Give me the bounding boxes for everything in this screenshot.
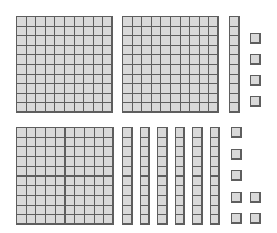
ten-rod	[192, 127, 202, 224]
diagram-title: Base-ten blocks	[0, 0, 7, 1]
block-cell	[175, 214, 186, 225]
unit-cube	[250, 33, 260, 43]
unit-cube	[250, 213, 260, 223]
unit-cube	[250, 192, 260, 202]
block-cell	[102, 102, 113, 113]
block-cell	[157, 214, 168, 225]
unit-cube	[250, 96, 260, 106]
ten-rod	[210, 127, 220, 224]
ten-rod	[140, 127, 150, 224]
block-cell	[231, 213, 242, 224]
block-cell	[250, 192, 261, 203]
block-cell	[122, 214, 133, 225]
hundred-flat	[122, 16, 218, 112]
block-cell	[140, 214, 151, 225]
block-cell	[231, 192, 242, 203]
ten-rod	[122, 127, 132, 224]
block-cell	[210, 214, 221, 225]
ten-rod	[175, 127, 185, 224]
block-cell	[250, 96, 261, 107]
hundred-flat	[16, 127, 113, 224]
unit-cube	[231, 192, 241, 202]
unit-cube	[231, 127, 241, 137]
unit-cube	[231, 149, 241, 159]
block-cell	[229, 102, 240, 113]
block-cell	[250, 54, 261, 65]
block-cell	[231, 127, 242, 138]
block-cell	[250, 75, 261, 86]
ten-rod	[229, 16, 239, 112]
block-cell	[192, 214, 203, 225]
block-cell	[250, 213, 261, 224]
block-cell	[231, 149, 242, 160]
block-cell	[103, 214, 114, 225]
ten-rod	[157, 127, 167, 224]
unit-cube	[250, 75, 260, 85]
hundred-flat	[16, 16, 112, 112]
unit-cube	[231, 170, 241, 180]
block-cell	[231, 170, 242, 181]
unit-cube	[231, 213, 241, 223]
block-cell	[208, 102, 219, 113]
base-ten-blocks-diagram: Base-ten blocks	[0, 0, 277, 233]
block-cell	[250, 33, 261, 44]
unit-cube	[250, 54, 260, 64]
